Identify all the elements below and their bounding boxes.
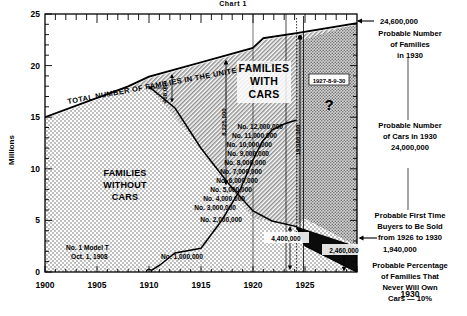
- side-note4-line1: Probable Percentage: [372, 261, 448, 270]
- label-gap-2460000: 2,460,000: [329, 247, 359, 255]
- milestone-11000000: No. 11,000,000: [232, 132, 277, 140]
- label-forecast-years: 1927-8-9-30: [313, 78, 346, 84]
- chart-title: Chart 1: [219, 0, 247, 7]
- pointer-24600000: [357, 19, 374, 24]
- x-tick-1915: 1915: [192, 280, 211, 290]
- x-tick-1920: 1920: [244, 280, 263, 290]
- milestone-8000000: No. 8,000,000: [224, 159, 266, 167]
- side-note1-line2: of Families: [390, 40, 430, 49]
- label-families-with-cars-3: CARS: [249, 88, 280, 100]
- side-note4-line4: Cars — 10%: [388, 294, 432, 303]
- label-gap-19000000: 19,000,000: [294, 124, 301, 156]
- label-gap-8225000: 8,225,000: [220, 108, 227, 136]
- side-note3-value: 1,940,000: [383, 245, 417, 254]
- label-families-without-cars-1: FAMILIES: [103, 168, 146, 178]
- side-note2-line2: of Cars in 1930: [383, 132, 437, 141]
- side-note1-line1: Probable Number: [378, 29, 441, 38]
- label-gap-4400000: 4,400,000: [271, 235, 301, 243]
- milestone-5000000: No. 5,000,000: [210, 186, 252, 194]
- label-families-with-cars-1: FAMILIES: [239, 62, 290, 74]
- y-tick-5: 5: [35, 215, 40, 225]
- x-tick-1925: 1925: [296, 280, 315, 290]
- y-axis-title: Millions: [7, 135, 16, 165]
- y-tick-10: 10: [31, 164, 41, 174]
- pointer-1940000: [359, 236, 378, 241]
- milestone-9000000: No. 9,000,000: [227, 150, 269, 158]
- x-tick-1900: 1900: [36, 280, 55, 290]
- side-note2-line1: Probable Number: [378, 121, 441, 130]
- milestone-12000000: No. 12,000,000: [238, 123, 284, 131]
- milestone-1000000: No. 1,000,000: [161, 253, 203, 261]
- label-families-with-cars-2: WITH: [250, 75, 278, 87]
- side-note4-line2: of Families That: [381, 272, 439, 281]
- y-tick-15: 15: [31, 112, 41, 122]
- side-note1-line3: in 1930: [397, 51, 423, 60]
- label-families-without-cars-2: WITHOUT: [103, 180, 147, 190]
- side-note1-value: 24,600,000: [380, 17, 418, 26]
- label-question-mark: ?: [324, 96, 333, 113]
- chart-svg: Chart 1 25 20 15 10 5 0 Millions 1900 19…: [0, 0, 467, 316]
- y-tick-0: 0: [35, 267, 40, 277]
- milestone-3000000: No. 3,000,000: [194, 204, 236, 212]
- milestone-10000000: No. 10,000,000: [227, 141, 273, 149]
- x-tick-1910: 1910: [140, 280, 159, 290]
- milestone-7000000: No. 7,000,000: [220, 168, 262, 176]
- y-tick-20: 20: [31, 61, 41, 71]
- side-note3-line1: Probable First Time: [375, 211, 446, 220]
- label-families-without-cars-3: CARS: [112, 192, 138, 202]
- milestone-2000000: No. 2,000,000: [200, 216, 242, 224]
- chart-figure: Chart 1 25 20 15 10 5 0 Millions 1900 19…: [0, 0, 467, 316]
- side-note3-line3: from 1926 to 1930: [378, 233, 442, 242]
- side-note3-line2: Buyers to Be Sold: [377, 222, 443, 231]
- x-tick-1905: 1905: [88, 280, 107, 290]
- side-note4-line3: Never Will Own: [382, 283, 438, 292]
- y-tick-25: 25: [31, 9, 41, 19]
- label-model-t-line2: Oct. 1, 1908: [71, 253, 108, 261]
- milestone-4000000: No. 4,000,000: [203, 195, 245, 203]
- milestone-6000000: No. 6,000,000: [216, 177, 258, 185]
- side-note2-line3: 24,000,000: [391, 143, 429, 152]
- area-forecast-band: [297, 23, 357, 246]
- label-model-t-line1: No. 1 Model T: [66, 244, 109, 251]
